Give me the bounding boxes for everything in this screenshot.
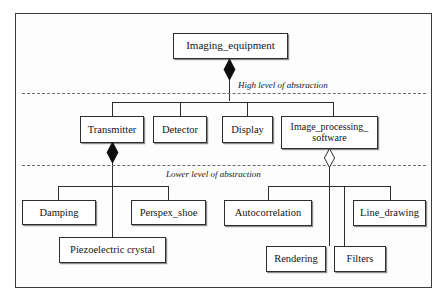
node-label-display: Display [228, 124, 267, 135]
connector-drop-filters [344, 186, 345, 246]
connector-transmitter-bus [58, 186, 168, 187]
connector-level2-bus [112, 102, 333, 103]
node-display[interactable]: Display [222, 116, 273, 143]
node-line-drawing[interactable]: Line_drawing [353, 200, 426, 226]
band-label-lower-level: Lower level of abstraction [166, 169, 261, 179]
node-label-line-drawing: Line_drawing [357, 207, 422, 218]
diagram-canvas: High level of abstraction Lower level of… [0, 0, 447, 305]
composition-diamond-transmitter [106, 142, 119, 163]
band-label-high-level: High level of abstraction [238, 80, 328, 90]
node-damping[interactable]: Damping [22, 200, 96, 225]
node-filters[interactable]: Filters [334, 246, 386, 272]
connector-drop-damping [58, 186, 59, 200]
connector-drop-detector [180, 102, 181, 116]
node-label-piezoelectric-crystal: Piezoelectric crystal [67, 244, 158, 255]
connector-drop-perspex-shoe [168, 186, 169, 200]
node-transmitter[interactable]: Transmitter [80, 116, 144, 143]
node-perspex-shoe[interactable]: Perspex_shoe [131, 200, 206, 225]
divider-high-level [22, 93, 426, 94]
node-label-transmitter: Transmitter [85, 124, 140, 135]
connector-drop-line-drawing [390, 186, 391, 200]
connector-drop-transmitter [112, 102, 113, 116]
node-label-rendering: Rendering [271, 253, 321, 264]
node-label-detector: Detector [159, 124, 201, 135]
connector-drop-rendering [329, 186, 330, 246]
connector-drop-piezoelectric-crystal [112, 186, 113, 237]
node-label-damping: Damping [36, 207, 81, 218]
connector-drop-autocorrelation [268, 186, 269, 200]
node-rendering[interactable]: Rendering [266, 246, 326, 272]
connector-drop-display [247, 102, 248, 116]
node-autocorrelation[interactable]: Autocorrelation [224, 200, 312, 226]
node-label-autocorrelation: Autocorrelation [232, 207, 304, 218]
node-label-image-processing-software: Image_processing_ software [288, 122, 372, 143]
aggregation-diamond-image-processing-software [323, 148, 336, 168]
divider-lower-level [22, 165, 426, 166]
composition-diamond-imaging-equipment [223, 59, 236, 80]
node-label-filters: Filters [344, 253, 377, 264]
node-label-perspex-shoe: Perspex_shoe [137, 207, 201, 218]
node-image-processing-software[interactable]: Image_processing_ software [281, 116, 378, 149]
diagram-frame: High level of abstraction Lower level of… [15, 13, 432, 288]
node-label-imaging-equipment: Imaging_equipment [183, 40, 278, 52]
connector-drop-image-processing [333, 102, 334, 116]
node-piezoelectric-crystal[interactable]: Piezoelectric crystal [59, 237, 166, 263]
node-detector[interactable]: Detector [153, 116, 207, 143]
node-imaging-equipment[interactable]: Imaging_equipment [173, 33, 288, 59]
